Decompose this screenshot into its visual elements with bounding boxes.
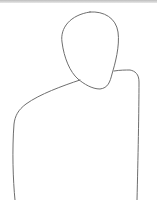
right-shoulder-outline [114,70,139,200]
sketch-canvas [0,0,157,200]
head-outline [62,12,119,89]
left-shoulder-outline [13,80,80,200]
